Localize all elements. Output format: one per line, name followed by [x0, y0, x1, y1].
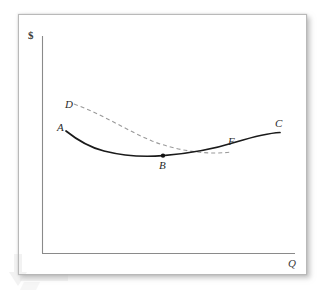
x-axis-label: Q	[288, 258, 296, 269]
y-axis-label: $	[28, 30, 34, 41]
solid-cost-curve	[66, 131, 280, 156]
point-label-d: D	[65, 99, 73, 110]
point-label-a: A	[57, 122, 64, 133]
point-marker-b	[161, 153, 165, 157]
point-label-b: B	[159, 160, 166, 171]
point-label-f: F	[228, 136, 235, 147]
figure-root: $ Q A D B F C	[0, 0, 323, 293]
plot-canvas	[0, 0, 323, 293]
point-label-c: C	[275, 118, 282, 129]
dashed-cost-curve	[74, 104, 232, 153]
